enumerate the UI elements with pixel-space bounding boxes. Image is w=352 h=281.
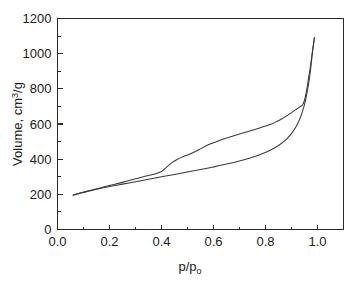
y-tick-label: 200 [30,187,52,202]
axes [58,19,344,230]
y-axis-label-main: Volume, cm [10,98,25,166]
x-tick-label: 0.2 [100,234,118,249]
x-tick-label: 1.0 [308,234,326,249]
y-tick-label: 400 [30,152,52,167]
x-axis-label-subscript: o [197,266,202,276]
axis-tick-labels: 0200400600800100012000.00.20.40.60.81.0 [23,11,327,249]
data-curves [73,38,314,195]
curve-adsorption [73,38,314,195]
y-tick-label: 1000 [23,46,52,61]
y-tick-label: 800 [30,81,52,96]
x-tick-label: 0.8 [256,234,274,249]
curve-desorption [73,38,314,195]
y-axis-label: Volume, cm3/g [10,82,25,166]
isotherm-chart-figure: 0200400600800100012000.00.20.40.60.81.0 … [0,0,352,281]
x-axis-label-main: p/p [178,259,196,274]
y-axis-label-tail: /g [10,82,25,93]
x-axis-label: p/po [178,259,201,276]
axis-ticks [58,19,344,230]
x-tick-label: 0.0 [48,234,66,249]
plot-frame [58,19,344,230]
y-tick-label: 1200 [23,11,52,26]
x-tick-label: 0.4 [152,234,170,249]
y-tick-label: 600 [30,117,52,132]
x-tick-label: 0.6 [204,234,222,249]
chart-canvas: 0200400600800100012000.00.20.40.60.81.0 … [0,0,352,281]
